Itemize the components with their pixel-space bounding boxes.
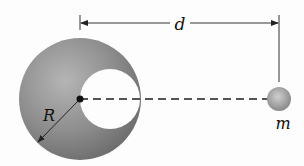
diagram-svg: d R m bbox=[0, 0, 304, 166]
gravity-cavity-diagram: d R m bbox=[0, 0, 304, 166]
mass-label: m bbox=[275, 114, 290, 133]
center-dot bbox=[77, 96, 84, 103]
particle-sphere bbox=[267, 87, 291, 111]
distance-label: d bbox=[175, 14, 186, 34]
radius-label: R bbox=[42, 106, 55, 125]
